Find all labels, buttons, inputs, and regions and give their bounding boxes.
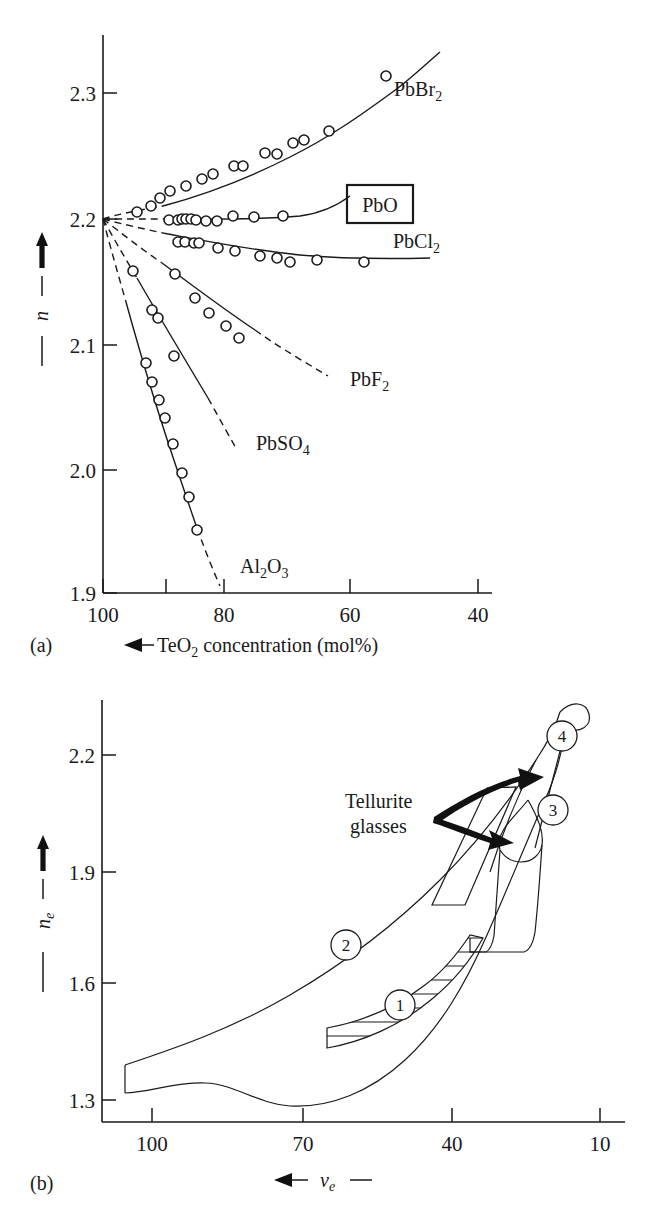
panel-b: 2.2 1.9 1.6 1.3 100 70 40 10 ne νe	[30, 700, 625, 1195]
panel-a-xtick-0: 100	[87, 603, 119, 627]
panel-a-y-axis-label: n	[30, 311, 52, 321]
panel-a-ytick-3: 2.0	[70, 459, 96, 483]
series-label-al2o3: Al2O3	[240, 555, 288, 581]
panel-a-x-axis-title: TeO2 concentration (mol%)	[124, 634, 378, 660]
region-2-label: 2	[342, 936, 351, 955]
panel-a-ytick-0: 2.3	[70, 82, 96, 106]
panel-b-label: (b)	[30, 1172, 53, 1195]
panel-a-xtick-3: 40	[468, 603, 489, 627]
region-1-label: 1	[396, 996, 405, 1015]
panel-b-ytick-1: 1.9	[69, 861, 95, 885]
panel-b-ytick-3: 1.3	[69, 1089, 95, 1113]
left-arrow-icon	[124, 638, 142, 652]
region-2-upper-outline	[125, 712, 560, 1065]
series-pbbr2-markers	[132, 71, 391, 217]
series-al2o3-dashed-lead	[103, 219, 126, 302]
series-pbo-curve	[176, 196, 350, 219]
annotation-arrows	[433, 768, 544, 850]
series-label-pbo: PbO	[362, 194, 398, 216]
series-al2o3-dashed-tail	[197, 528, 220, 586]
series-label-pbcl2: PbCl2	[393, 230, 440, 256]
panel-a-y-ticks: 2.3 2.2 2.1 2.0 1.9	[70, 82, 117, 606]
left-arrow-icon-b	[274, 1173, 292, 1187]
series-pbcl2-curve	[168, 234, 430, 259]
panel-b-y-axis-title: ne	[32, 835, 57, 992]
region-3-strip-left	[470, 850, 500, 952]
panel-a-y-axis-title: n	[30, 232, 52, 366]
series-label-pbf2: PbF2	[350, 368, 389, 394]
up-arrow-icon	[36, 232, 48, 268]
panel-a-label: (a)	[30, 634, 52, 657]
panel-b-y-axis-label: ne	[32, 913, 57, 929]
annotation-tellurite-line2: glasses	[350, 815, 407, 838]
panel-a-x-axis-label: TeO2 concentration (mol%)	[157, 634, 378, 660]
panel-b-ytick-2: 1.6	[69, 972, 95, 996]
panel-b-x-axis-title: νe	[274, 1169, 372, 1194]
series-label-pbbr2: PbBr2	[394, 78, 442, 104]
panel-a-xtick-1: 80	[214, 603, 235, 627]
series-pbso4-markers	[128, 266, 179, 361]
panel-b-xtick-2: 40	[442, 1132, 463, 1156]
region-3-label: 3	[549, 801, 558, 820]
panel-b-ytick-0: 2.2	[69, 744, 95, 768]
region-4-label: 4	[558, 727, 567, 746]
series-label-pbso4: PbSO4	[256, 432, 310, 458]
panel-b-xtick-3: 10	[590, 1132, 611, 1156]
series-pbcl2: PbCl2	[103, 219, 440, 267]
panel-a-ytick-2: 2.1	[70, 334, 96, 358]
region-3-strip-right	[470, 845, 542, 952]
series-pbf2-dashed-tail	[255, 330, 328, 376]
panel-a-xtick-2: 60	[340, 603, 361, 627]
panel-b-x-ticks: 100 70 40 10	[136, 1108, 610, 1156]
figure-root: 2.3 2.2 2.1 2.0 1.9 100 80 60 40 n	[0, 0, 657, 1213]
panel-a-ytick-1: 2.2	[70, 208, 96, 232]
series-pbso4-dashed-tail	[208, 398, 237, 450]
panel-b-x-axis-label: νe	[320, 1169, 335, 1194]
annotation-tellurite-line1: Tellurite	[345, 790, 413, 812]
panel-b-xtick-1: 70	[293, 1132, 314, 1156]
tellurite-prism-outline	[432, 787, 516, 905]
panel-b-xtick-0: 100	[136, 1132, 168, 1156]
figure-svg: 2.3 2.2 2.1 2.0 1.9 100 80 60 40 n	[0, 0, 657, 1213]
panel-b-y-ticks: 2.2 1.9 1.6 1.3	[69, 744, 116, 1113]
series-al2o3-markers	[141, 358, 202, 535]
panel-a-x-ticks: 100 80 60 40	[87, 579, 488, 627]
series-pbf2-markers	[170, 269, 244, 343]
panel-a: 2.3 2.2 2.1 2.0 1.9 100 80 60 40 n	[30, 35, 492, 660]
annotation-arrow-upper-icon	[434, 768, 544, 823]
up-arrow-icon-b	[37, 835, 49, 871]
